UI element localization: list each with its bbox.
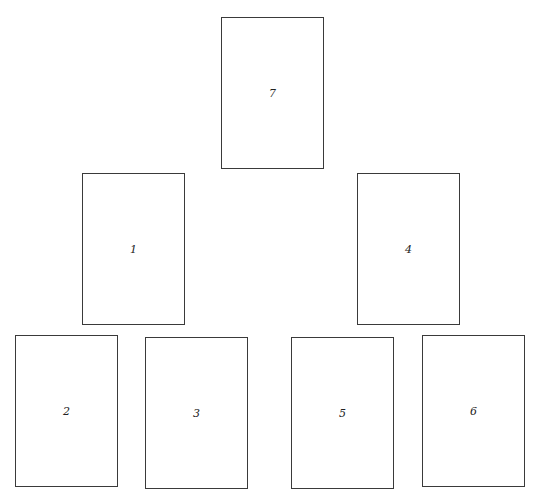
card-6: 6 [422, 335, 525, 487]
card-5: 5 [291, 337, 394, 489]
card-label: 6 [470, 405, 477, 418]
card-label: 3 [193, 407, 200, 420]
card-label: 7 [269, 87, 276, 100]
card-label: 4 [405, 243, 412, 256]
card-4: 4 [357, 173, 460, 325]
card-label: 1 [130, 243, 137, 256]
card-7: 7 [221, 17, 324, 169]
card-1: 1 [82, 173, 185, 325]
card-label: 5 [339, 407, 346, 420]
card-2: 2 [15, 335, 118, 487]
card-3: 3 [145, 337, 248, 489]
card-label: 2 [63, 405, 70, 418]
